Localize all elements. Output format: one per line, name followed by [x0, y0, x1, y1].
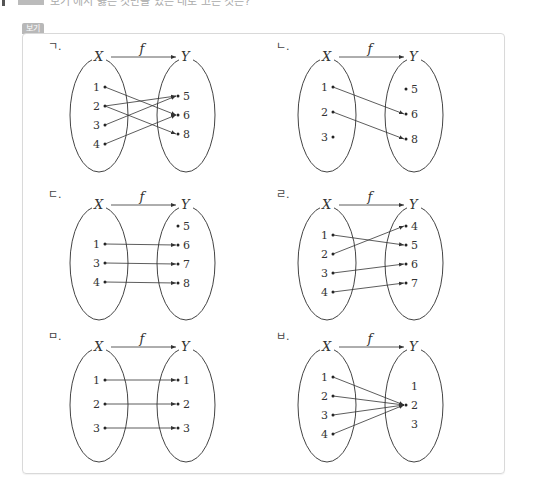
- panel-label: ㅂ.: [276, 330, 290, 343]
- mapping-arrow: [333, 405, 404, 434]
- codomain-point: [177, 282, 180, 285]
- domain-value: 1: [93, 374, 100, 387]
- domain-label: X: [321, 339, 332, 354]
- domain-value: 2: [321, 390, 328, 403]
- mapping-arrow: [105, 263, 176, 264]
- function-label: f: [367, 189, 375, 204]
- codomain-value: 5: [183, 90, 190, 103]
- domain-label: X: [321, 49, 332, 64]
- panel-label: ㅁ.: [48, 330, 62, 343]
- codomain-point: [177, 427, 180, 430]
- mapping-arrow: [105, 96, 176, 106]
- codomain-point: [405, 263, 408, 266]
- domain-value: 2: [321, 106, 328, 119]
- codomain-label: Y: [409, 339, 419, 354]
- domain-label: X: [93, 197, 104, 212]
- function-label: f: [139, 331, 147, 346]
- function-label: f: [139, 41, 147, 56]
- mapping-arrow: [105, 244, 176, 245]
- panel-label: ㄹ.: [276, 188, 290, 201]
- codomain-value: 2: [411, 399, 418, 412]
- codomain-value: 1: [411, 380, 418, 393]
- codomain-value: 8: [183, 128, 190, 141]
- domain-ellipse: [298, 206, 356, 320]
- codomain-value: 6: [183, 109, 190, 122]
- panel-label: ㄷ.: [48, 188, 62, 201]
- domain-value: 4: [93, 138, 100, 151]
- codomain-value: 3: [183, 422, 190, 435]
- codomain-value: 7: [183, 258, 190, 271]
- domain-label: X: [93, 339, 104, 354]
- codomain-point: [405, 282, 408, 285]
- domain-value: 4: [93, 276, 100, 289]
- codomain-value: 6: [411, 108, 418, 121]
- domain-value: 1: [321, 371, 328, 384]
- mapping-arrow: [333, 226, 404, 254]
- function-diagrams: ㄱ.XYf1234568ㄴ.XYf123568ㄷ.XYf1345678ㄹ.XYf…: [0, 0, 542, 495]
- function-panel: ㅁ.XYf123123: [48, 330, 215, 462]
- codomain-value: 5: [411, 83, 418, 96]
- domain-value: 3: [93, 119, 100, 132]
- codomain-value: 1: [183, 374, 190, 387]
- codomain-point: [405, 88, 408, 91]
- domain-value: 2: [321, 248, 328, 261]
- domain-value: 4: [321, 428, 328, 441]
- codomain-value: 5: [183, 220, 190, 233]
- domain-value: 1: [93, 81, 100, 94]
- codomain-label: Y: [181, 49, 191, 64]
- codomain-point: [405, 244, 408, 247]
- panel-label: ㄴ.: [276, 40, 290, 53]
- panel-label: ㄱ.: [48, 40, 62, 53]
- function-panel: ㄴ.XYf123568: [276, 40, 443, 172]
- domain-ellipse: [298, 348, 356, 462]
- function-panel: ㅂ.XYf1234123: [276, 330, 443, 462]
- domain-value: 3: [321, 131, 328, 144]
- codomain-point: [177, 114, 180, 117]
- function-panel: ㄷ.XYf1345678: [48, 188, 215, 320]
- codomain-point: [177, 244, 180, 247]
- codomain-value: 3: [411, 418, 418, 431]
- codomain-value: 8: [411, 133, 418, 146]
- mapping-arrow: [333, 405, 404, 415]
- codomain-point: [177, 95, 180, 98]
- codomain-point: [177, 263, 180, 266]
- codomain-label: Y: [409, 49, 419, 64]
- codomain-point: [177, 225, 180, 228]
- codomain-point: [405, 138, 408, 141]
- domain-value: 1: [321, 81, 328, 94]
- codomain-point: [405, 404, 408, 407]
- domain-value: 3: [93, 257, 100, 270]
- codomain-label: Y: [181, 197, 191, 212]
- function-panel: ㄹ.XYf12344567: [276, 188, 443, 320]
- function-panel: ㄱ.XYf1234568: [48, 40, 215, 172]
- codomain-value: 7: [411, 277, 418, 290]
- domain-ellipse: [70, 58, 128, 172]
- codomain-value: 6: [411, 258, 418, 271]
- domain-value: 2: [93, 398, 100, 411]
- domain-label: X: [321, 197, 332, 212]
- domain-value: 1: [93, 238, 100, 251]
- domain-value: 3: [321, 267, 328, 280]
- codomain-point: [405, 113, 408, 116]
- codomain-value: 5: [411, 239, 418, 252]
- mapping-arrow: [333, 264, 404, 273]
- codomain-point: [177, 403, 180, 406]
- domain-value: 2: [93, 100, 100, 113]
- mapping-arrow: [333, 283, 404, 292]
- codomain-point: [177, 379, 180, 382]
- codomain-point: [177, 133, 180, 136]
- codomain-value: 8: [183, 277, 190, 290]
- domain-point: [332, 136, 335, 139]
- codomain-value: 6: [183, 239, 190, 252]
- codomain-value: 2: [183, 398, 190, 411]
- domain-label: X: [93, 49, 104, 64]
- domain-value: 3: [93, 422, 100, 435]
- codomain-label: Y: [181, 339, 191, 354]
- domain-value: 4: [321, 286, 328, 299]
- codomain-point: [405, 225, 408, 228]
- mapping-arrow: [333, 87, 404, 114]
- codomain-value: 4: [411, 220, 418, 233]
- function-label: f: [367, 331, 375, 346]
- domain-value: 3: [321, 409, 328, 422]
- mapping-arrow: [105, 282, 176, 283]
